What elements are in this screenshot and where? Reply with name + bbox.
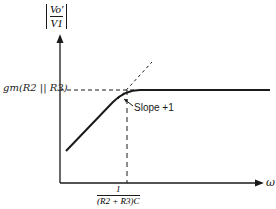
breakpoint-numerator: 1 [116, 185, 121, 194]
y-label-denominator: V1 [51, 18, 63, 29]
y-label-numerator: Vo′ [50, 4, 63, 15]
breakpoint-frequency-label: 1 (R2 + R3)C [97, 185, 140, 206]
slope-label: Slope +1 [134, 102, 174, 113]
y-axis-label: Vo′ V1 [46, 4, 67, 29]
x-axis-label: ω [266, 176, 275, 189]
magnitude-curve [66, 90, 270, 151]
breakpoint-denominator: (R2 + R3)C [97, 197, 140, 206]
gain-level-label: gm(R2 || R3) [3, 82, 68, 93]
